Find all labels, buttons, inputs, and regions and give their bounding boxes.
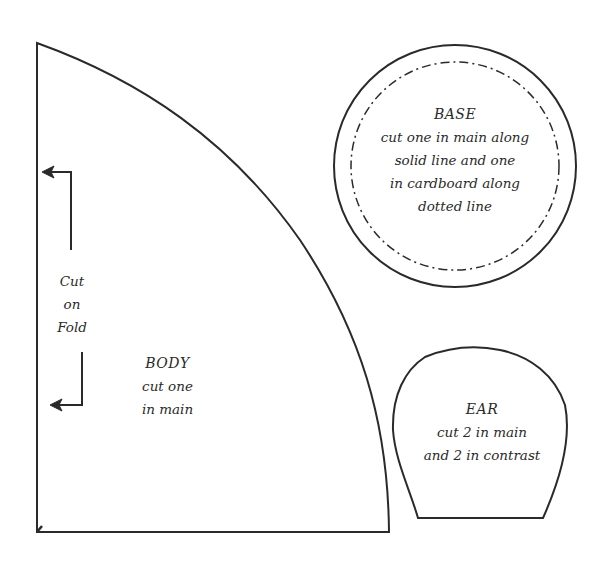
- base-instruction-3: in cardboard along: [370, 172, 540, 195]
- body-instruction-2: in main: [125, 398, 210, 421]
- base-title: BASE: [370, 103, 540, 126]
- body-label: BODY cut one in main: [125, 352, 210, 421]
- fold-label: Cut on Fold: [48, 270, 96, 339]
- base-instruction-4: dotted line: [370, 195, 540, 218]
- fold-text-1: Cut: [48, 270, 96, 293]
- ear-instruction-2: and 2 in contrast: [412, 444, 552, 467]
- body-title: BODY: [125, 352, 210, 375]
- base-instruction-1: cut one in main along: [370, 126, 540, 149]
- fold-text-2: on: [48, 293, 96, 316]
- fold-text-3: Fold: [48, 316, 96, 339]
- base-instruction-2: solid line and one: [370, 149, 540, 172]
- fold-arrow-bottom-icon: [50, 352, 82, 411]
- fold-arrow-top-icon: [42, 166, 71, 250]
- sewing-pattern-sheet: BODY cut one in main Cut on Fold BASE cu…: [0, 0, 607, 565]
- ear-instruction-1: cut 2 in main: [412, 421, 552, 444]
- ear-label: EAR cut 2 in main and 2 in contrast: [412, 398, 552, 467]
- base-label: BASE cut one in main along solid line an…: [370, 103, 540, 218]
- ear-title: EAR: [412, 398, 552, 421]
- body-instruction-1: cut one: [125, 375, 210, 398]
